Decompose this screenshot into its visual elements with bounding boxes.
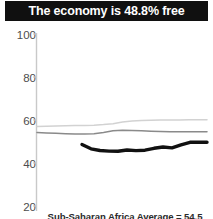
chart-title-bar: The economy is 48.8% free (5, 1, 208, 21)
plot-svg (0, 22, 213, 219)
economic-freedom-chart-widget: The economy is 48.8% free 100 80 60 40 2… (0, 0, 213, 219)
regional-average-annotation: Sub-Saharan Africa Average = 54.5 (37, 211, 213, 219)
series-line-country-score (82, 142, 207, 151)
plot-area: 100 80 60 40 20 Sub-Sahara (0, 22, 213, 219)
chart-annotations: Sub-Saharan Africa Average = 54.5 World … (37, 211, 213, 219)
chart-title: The economy is 48.8% free (28, 5, 184, 18)
series-line-world-average (37, 120, 207, 127)
series-line-regional-average (37, 130, 207, 134)
